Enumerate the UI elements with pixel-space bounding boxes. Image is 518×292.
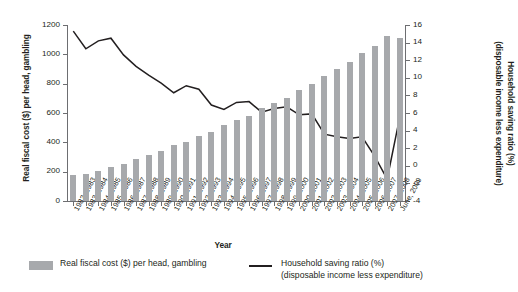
bar — [133, 159, 139, 201]
bar — [284, 98, 290, 201]
y-axis-tick-mark-right — [406, 25, 410, 26]
bar — [372, 46, 378, 201]
bar — [108, 167, 114, 201]
y-axis-tick-mark-right — [406, 95, 410, 96]
legend-line-swatch — [249, 265, 272, 267]
bar — [146, 155, 152, 201]
y-axis-tick-label-left: 200 — [26, 166, 60, 175]
bar — [158, 151, 164, 201]
y-axis-tick-mark-right — [406, 148, 410, 149]
y-axis-tick-label-right: 4 — [413, 125, 443, 134]
bar — [246, 116, 252, 201]
bar — [95, 171, 101, 201]
y-axis-tick-label-left: 600 — [26, 108, 60, 117]
bar — [121, 164, 127, 201]
y-axis-tick-mark-left — [63, 172, 67, 173]
bar — [334, 69, 340, 201]
legend-line-label-line2: (disposable income less expenditure) — [281, 270, 423, 280]
y-axis-tick-label-right: 14 — [413, 37, 443, 46]
y-axis-tick-label-left: 400 — [26, 137, 60, 146]
bar — [347, 62, 353, 201]
bar — [271, 103, 277, 201]
bar — [296, 90, 302, 201]
y-axis-tick-label-right: -4 — [413, 196, 443, 205]
bar — [309, 84, 315, 201]
legend-bar-swatch — [29, 261, 53, 270]
y-axis-tick-label-right: 10 — [413, 72, 443, 81]
bar — [359, 53, 365, 201]
legend-line-label: Household saving ratio (%) (disposable i… — [281, 258, 423, 281]
y-axis-tick-label-right: 6 — [413, 108, 443, 117]
bar — [397, 38, 403, 201]
bar — [83, 174, 89, 201]
x-axis-title: Year — [0, 240, 446, 250]
bar — [321, 76, 327, 201]
y-axis-tick-label-left: 0 — [26, 196, 60, 205]
bar — [234, 120, 240, 201]
bar — [183, 142, 189, 201]
bar — [221, 125, 227, 201]
bar — [384, 36, 390, 201]
right-axis-title-line1: Household saving ratio (%) — [506, 61, 516, 165]
y-axis-tick-label-right: 12 — [413, 55, 443, 64]
right-axis-title: Household saving ratio (%) (disposable i… — [494, 18, 518, 208]
bar — [208, 132, 214, 201]
y-axis-tick-label-left: 800 — [26, 78, 60, 87]
y-axis-tick-mark-right — [406, 43, 410, 44]
y-axis-tick-label-right: 16 — [413, 20, 443, 29]
right-axis-title-line2: (disposable income less expenditure) — [494, 41, 504, 185]
y-axis-tick-mark-right — [406, 60, 410, 61]
bar — [171, 145, 177, 201]
y-axis-tick-label-right: 2 — [413, 143, 443, 152]
y-axis-tick-label-right: 0 — [413, 160, 443, 169]
y-axis-tick-mark-right — [406, 113, 410, 114]
bar — [259, 108, 265, 201]
y-axis-tick-mark-right — [406, 78, 410, 79]
y-axis-tick-mark-right — [406, 131, 410, 132]
bar — [196, 136, 202, 201]
y-axis-tick-label-left: 1200 — [26, 20, 60, 29]
legend-line-label-line1: Household saving ratio (%) — [281, 258, 384, 268]
y-axis-tick-label-left: 1000 — [26, 49, 60, 58]
y-axis-tick-mark-left — [63, 54, 67, 55]
chart-legend: Real fiscal cost ($) per head, gambling … — [0, 256, 513, 290]
y-axis-tick-mark-left — [63, 113, 67, 114]
y-axis-tick-mark-left — [63, 142, 67, 143]
bar — [70, 175, 76, 201]
y-axis-tick-mark-left — [63, 25, 67, 26]
y-axis-tick-mark-right — [406, 166, 410, 167]
y-axis-tick-mark-left — [63, 201, 67, 202]
y-axis-tick-mark-left — [63, 84, 67, 85]
legend-bar-label: Real fiscal cost ($) per head, gambling — [60, 258, 207, 268]
y-axis-tick-label-right: 8 — [413, 90, 443, 99]
